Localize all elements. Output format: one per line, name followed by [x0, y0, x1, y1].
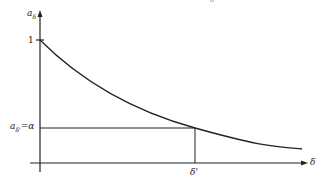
- y-tick-label-1: 1: [28, 36, 34, 45]
- x-axis-label: δ: [310, 158, 315, 167]
- y-axis-label-sub: δ: [32, 13, 36, 20]
- delta-prime-label: δ': [190, 168, 198, 177]
- alpha-label-sub: δ': [15, 126, 20, 133]
- top-fragment-label: δ: [210, 0, 214, 5]
- alpha-label-suffix: =α: [21, 121, 35, 131]
- decreasing-curve: [40, 40, 302, 149]
- x-axis-arrow-icon: [301, 161, 308, 166]
- y-axis-label: aδ: [27, 9, 36, 18]
- y-axis-arrow-icon: [38, 10, 43, 17]
- diagram-canvas: [0, 0, 318, 181]
- alpha-label: aδ'=α: [10, 122, 34, 131]
